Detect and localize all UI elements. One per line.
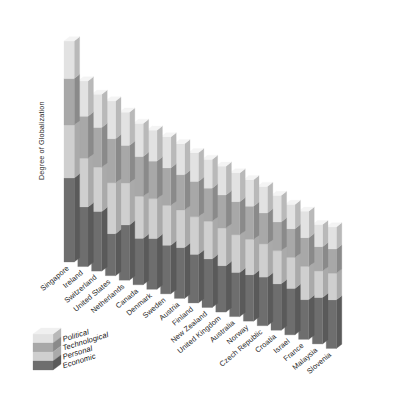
bar-front-face: [64, 41, 74, 79]
bar-side-face: [157, 234, 162, 289]
y-axis-label: Degree of Globalization: [37, 101, 46, 180]
globalization-chart: Degree of Globalization SloveniaMalaysia…: [0, 0, 398, 403]
bar-side-face: [88, 77, 93, 117]
bar-side-face: [281, 246, 286, 283]
bar-column[interactable]: [92, 90, 108, 271]
bar-side-face: [212, 255, 217, 308]
bar-side-face: [129, 221, 134, 280]
bar-column[interactable]: [312, 220, 328, 344]
bar-side-face: [74, 37, 79, 79]
bar-side-face: [198, 213, 203, 255]
bar-side-face: [212, 155, 217, 188]
bar-side-face: [309, 262, 314, 299]
chart-canvas: Degree of Globalization SloveniaMalaysia…: [0, 0, 398, 403]
bar-side-face: [171, 133, 176, 168]
bar-column[interactable]: [174, 140, 190, 299]
bar-side-face: [116, 97, 121, 139]
bar-side-face: [323, 242, 328, 271]
bar-side-face: [226, 224, 231, 266]
bar-side-face: [143, 152, 148, 196]
bar-side-face: [185, 170, 190, 210]
bar-column[interactable]: [202, 155, 218, 307]
bar-side-face: [226, 191, 231, 228]
bar-side-face: [74, 121, 79, 178]
legend-swatch-front: [33, 361, 53, 370]
y-axis-label-text: Degree of Globalization: [37, 101, 46, 180]
bar-side-face: [185, 243, 190, 298]
bar-side-face: [129, 141, 134, 183]
bar-front-face: [64, 125, 74, 178]
bar-side-face: [102, 123, 107, 167]
legend-swatch-front: [33, 334, 53, 343]
bar-column[interactable]: [147, 126, 163, 289]
bar-side-face: [143, 192, 148, 238]
bar-side-face: [102, 163, 107, 211]
bar-side-face: [240, 268, 245, 316]
bar-side-face: [323, 267, 328, 298]
bar-column[interactable]: [133, 119, 149, 285]
bar-side-face: [171, 164, 176, 206]
bar-side-face: [74, 174, 79, 262]
bar-side-face: [267, 182, 272, 213]
bar-side-face: [336, 296, 341, 349]
bar-side-face: [88, 203, 93, 267]
bar-side-face: [116, 134, 121, 182]
bar-side-face: [281, 191, 286, 222]
bar-side-face: [281, 218, 286, 251]
bar-side-face: [267, 209, 272, 244]
bar-column[interactable]: [78, 77, 94, 267]
legend-swatch-front: [33, 352, 53, 361]
bar-side-face: [295, 200, 300, 229]
bar-front-face: [64, 178, 74, 262]
bar-column[interactable]: [285, 200, 301, 335]
bar-side-face: [254, 271, 259, 322]
bar-side-face: [185, 206, 190, 248]
bar-column[interactable]: [119, 108, 135, 280]
bar-side-face: [323, 220, 328, 246]
bar-side-face: [157, 194, 162, 238]
bar-column[interactable]: [161, 133, 177, 294]
bar-column[interactable]: [326, 223, 342, 349]
bar-side-face: [102, 90, 107, 127]
bar-side-face: [129, 108, 134, 145]
bar-column[interactable]: [257, 182, 273, 325]
bar-column[interactable]: [299, 207, 315, 339]
bar-side-face: [185, 140, 190, 175]
bar-column[interactable]: [188, 148, 204, 302]
bar-side-face: [295, 253, 300, 288]
bar-side-face: [281, 280, 286, 331]
bar-side-face: [116, 229, 121, 275]
bar-column[interactable]: [243, 176, 259, 322]
bar-column[interactable]: [216, 162, 232, 312]
bar-column[interactable]: [271, 191, 287, 330]
legend-swatch-front: [33, 343, 53, 352]
bar-side-face: [309, 207, 314, 238]
bar-side-face: [212, 217, 217, 259]
bar-side-face: [226, 261, 231, 312]
bar-side-face: [143, 234, 148, 285]
bar-column[interactable]: [64, 37, 80, 262]
bar-side-face: [143, 119, 148, 156]
bar-side-face: [309, 233, 314, 266]
bar-side-face: [323, 293, 328, 344]
bar-side-face: [157, 157, 162, 199]
bar-side-face: [267, 273, 272, 326]
bar-side-face: [309, 295, 314, 339]
bar-side-face: [116, 179, 121, 234]
bar-side-face: [198, 250, 203, 303]
bar-column[interactable]: [230, 169, 246, 317]
bar-side-face: [336, 269, 341, 300]
bar-side-face: [198, 148, 203, 181]
bar-side-face: [254, 235, 259, 275]
bar-side-face: [171, 201, 176, 245]
bar-side-face: [171, 241, 176, 294]
bar-side-face: [254, 176, 259, 207]
bar-side-face: [88, 112, 93, 158]
bar-side-face: [336, 223, 341, 249]
bar-side-face: [226, 162, 231, 195]
bar-side-face: [336, 245, 341, 274]
bar-side-face: [240, 231, 245, 273]
bar-column[interactable]: [105, 97, 121, 276]
chart-legend: PoliticalTechnologicalPersonalEconomic: [33, 327, 110, 370]
bar-front-face: [64, 79, 74, 125]
